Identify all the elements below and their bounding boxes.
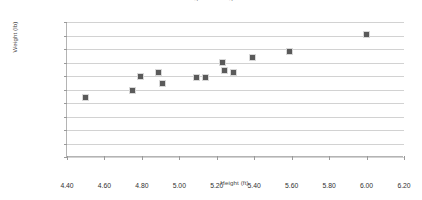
data-point xyxy=(82,94,89,101)
data-point xyxy=(230,69,237,76)
data-point xyxy=(193,74,200,81)
gridline xyxy=(67,117,404,118)
y-axis-title: Weight (lb) xyxy=(9,2,21,72)
y-tick-mark xyxy=(64,63,67,64)
gridline xyxy=(67,130,404,131)
gridline xyxy=(67,90,404,91)
x-tick-mark xyxy=(329,156,330,160)
plot-area: 020406080100120140160180200 4.404.604.80… xyxy=(66,22,403,157)
x-tick-mark xyxy=(217,156,218,160)
data-point xyxy=(286,48,293,55)
y-tick-mark xyxy=(64,49,67,50)
x-tick-mark xyxy=(254,156,255,160)
x-axis-title: Height (ft) xyxy=(66,179,403,186)
x-tick-mark xyxy=(142,156,143,160)
y-tick-mark xyxy=(64,76,67,77)
x-tick-mark xyxy=(104,156,105,160)
gridline xyxy=(67,144,404,145)
gridline xyxy=(67,76,404,77)
chart-title: Height vs Weight xyxy=(0,0,422,1)
y-tick-mark xyxy=(64,90,67,91)
scatter-chart: Height vs Weight Weight (lb) 02040608010… xyxy=(0,0,422,200)
y-tick-mark xyxy=(64,130,67,131)
y-tick-mark xyxy=(64,22,67,23)
y-tick-mark xyxy=(64,144,67,145)
y-tick-mark xyxy=(64,36,67,37)
data-point xyxy=(159,80,166,87)
gridline xyxy=(67,103,404,104)
x-tick-mark xyxy=(367,156,368,160)
gridline xyxy=(67,22,404,23)
data-point xyxy=(219,59,226,66)
y-tick-mark xyxy=(64,117,67,118)
x-tick-mark xyxy=(179,156,180,160)
data-point xyxy=(155,69,162,76)
data-point xyxy=(129,87,136,94)
gridline xyxy=(67,63,404,64)
gridline xyxy=(67,157,404,158)
x-tick-mark xyxy=(404,156,405,160)
gridline xyxy=(67,36,404,37)
y-tick-mark xyxy=(64,103,67,104)
data-point xyxy=(249,54,256,61)
x-tick-mark xyxy=(67,156,68,160)
data-point xyxy=(221,67,228,74)
x-tick-mark xyxy=(292,156,293,160)
data-point xyxy=(137,73,144,80)
gridline xyxy=(67,49,404,50)
data-point xyxy=(202,74,209,81)
data-point xyxy=(363,31,370,38)
